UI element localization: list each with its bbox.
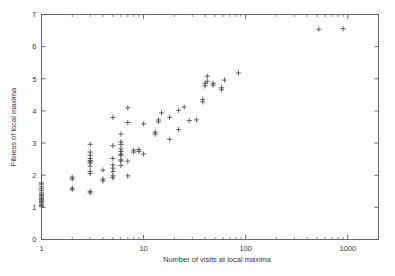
- data-point: [110, 115, 115, 120]
- data-point: [100, 167, 105, 172]
- scatter-plot: 012345671101001000 Number of visits at l…: [0, 0, 395, 276]
- data-point: [118, 146, 123, 151]
- data-point: [110, 162, 115, 167]
- axes-group: [42, 15, 379, 240]
- y-tick-label: 7: [32, 10, 36, 19]
- data-point: [118, 131, 123, 136]
- y-tick-label: 4: [32, 107, 36, 116]
- data-point: [340, 26, 345, 31]
- data-point: [167, 137, 172, 142]
- y-axis-label: Fitness of local maxima: [9, 87, 18, 166]
- x-tick-label: 10: [139, 244, 147, 253]
- data-point: [88, 142, 93, 147]
- data-point: [118, 139, 123, 144]
- data-point: [125, 105, 130, 110]
- data-point: [110, 156, 115, 161]
- y-tick-label: 2: [32, 171, 36, 180]
- data-point: [236, 70, 241, 75]
- y-tick-label: 0: [32, 235, 36, 244]
- data-point: [167, 115, 172, 120]
- data-point: [141, 121, 146, 126]
- y-tick-label: 6: [32, 42, 36, 51]
- x-tick-label: 100: [239, 244, 252, 253]
- chart-figure: 012345671101001000 Number of visits at l…: [0, 0, 395, 276]
- data-point: [141, 151, 146, 156]
- data-point: [187, 118, 192, 123]
- data-point: [182, 104, 187, 109]
- x-tick-label: 1: [39, 244, 43, 253]
- ticks-group: [42, 15, 379, 240]
- data-point: [159, 110, 164, 115]
- x-axis-label: Number of visits at local maxima: [163, 255, 272, 264]
- data-point: [194, 117, 199, 122]
- data-point: [110, 143, 115, 148]
- y-tick-label: 5: [32, 75, 36, 84]
- data-point: [222, 77, 227, 82]
- data-point: [176, 108, 181, 113]
- data-point: [200, 97, 205, 102]
- data-point: [176, 127, 181, 132]
- tick-labels-group: 012345671101001000: [32, 10, 356, 252]
- data-points-group: [39, 26, 346, 209]
- data-point: [118, 163, 123, 168]
- data-point: [125, 158, 130, 163]
- y-tick-label: 3: [32, 139, 36, 148]
- data-point: [205, 74, 210, 79]
- data-point: [39, 180, 44, 185]
- data-point: [125, 120, 130, 125]
- data-point: [88, 169, 93, 174]
- data-point: [88, 149, 93, 154]
- data-point: [125, 173, 130, 178]
- data-point: [316, 27, 321, 32]
- x-tick-label: 1000: [339, 244, 356, 253]
- y-tick-label: 1: [32, 203, 36, 212]
- data-point: [118, 157, 123, 162]
